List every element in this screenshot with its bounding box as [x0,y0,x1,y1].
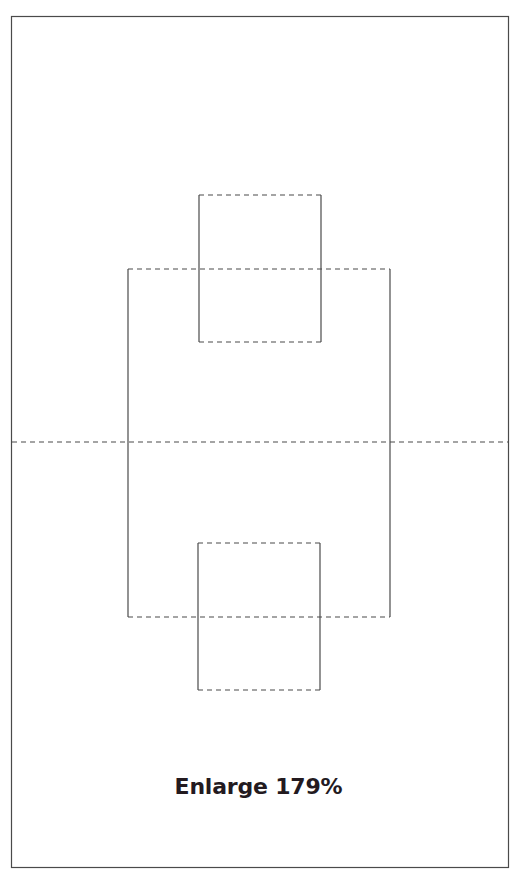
enlarge-caption: Enlarge 179% [0,774,517,799]
pattern-diagram [0,0,517,887]
large-box [128,269,390,617]
template-page: Enlarge 179% [0,0,517,887]
